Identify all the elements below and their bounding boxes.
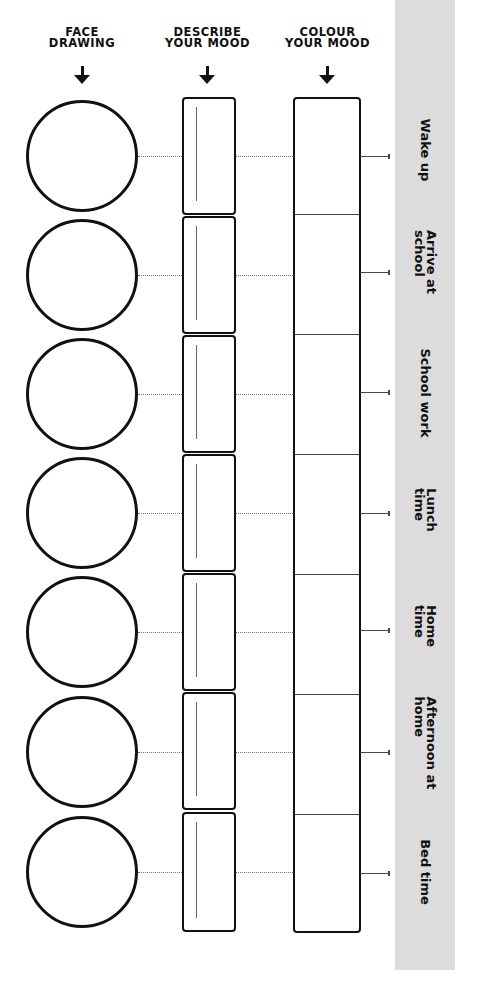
- time-label-text: Bed time: [419, 839, 431, 905]
- describe-mood-box[interactable]: [182, 216, 236, 334]
- header-face-drawing-text: FACE DRAWING: [49, 25, 115, 50]
- time-label-text: Home time: [413, 605, 437, 647]
- connector-line: [236, 156, 293, 157]
- connector-line: [236, 632, 293, 633]
- connector-line: [138, 872, 182, 873]
- timeline-tick: [360, 752, 389, 753]
- writing-line: [196, 822, 197, 918]
- describe-mood-box[interactable]: [182, 335, 236, 453]
- face-drawing-circle[interactable]: [26, 219, 138, 331]
- time-label-text: School work: [419, 348, 431, 437]
- connector-line: [236, 275, 293, 276]
- describe-mood-box[interactable]: [182, 573, 236, 691]
- timeline-tick-end: [388, 270, 390, 275]
- timeline-tick: [360, 392, 389, 393]
- time-label-text: Arrive at school: [413, 230, 437, 294]
- time-label-text: Afternoon at home: [413, 696, 437, 789]
- timeline-tick: [360, 513, 389, 514]
- connector-line: [236, 513, 293, 514]
- timeline-tick: [360, 630, 389, 631]
- header-describe-mood-text: DESCRIBE YOUR MOOD: [165, 25, 250, 50]
- connector-line: [138, 513, 182, 514]
- row-divider: [295, 334, 359, 335]
- describe-mood-box[interactable]: [182, 454, 236, 572]
- face-drawing-circle[interactable]: [26, 816, 138, 928]
- timeline-tick-end: [388, 154, 390, 159]
- connector-line: [236, 752, 293, 753]
- header-colour-mood: COLOUR YOUR MOOD: [270, 27, 385, 49]
- colour-mood-column[interactable]: [293, 97, 361, 933]
- connector-line: [138, 632, 182, 633]
- time-label-text: Wake up: [419, 119, 431, 182]
- face-drawing-circle[interactable]: [26, 338, 138, 450]
- timeline-tick: [360, 873, 389, 874]
- face-drawing-circle[interactable]: [26, 696, 138, 808]
- timeline-tick: [360, 156, 389, 157]
- connector-line: [236, 872, 293, 873]
- describe-mood-box[interactable]: [182, 812, 236, 932]
- timeline-tick-end: [388, 511, 390, 516]
- writing-line: [196, 583, 197, 677]
- face-drawing-circle[interactable]: [26, 457, 138, 569]
- writing-line: [196, 226, 197, 320]
- row-divider: [295, 214, 359, 215]
- time-label-text: Lunch time: [413, 488, 437, 532]
- timeline-tick-end: [388, 750, 390, 755]
- header-describe-mood: DESCRIBE YOUR MOOD: [150, 27, 265, 49]
- timeline-tick: [360, 272, 389, 273]
- row-divider: [295, 694, 359, 695]
- timeline-tick-end: [388, 871, 390, 876]
- writing-line: [196, 464, 197, 558]
- face-drawing-circle[interactable]: [26, 100, 138, 212]
- connector-line: [138, 752, 182, 753]
- writing-line: [196, 107, 197, 201]
- connector-line: [138, 156, 182, 157]
- connector-line: [236, 394, 293, 395]
- header-face-drawing: FACE DRAWING: [32, 27, 132, 49]
- connector-line: [138, 275, 182, 276]
- connector-line: [138, 394, 182, 395]
- writing-line: [196, 702, 197, 796]
- face-drawing-circle[interactable]: [26, 576, 138, 688]
- describe-mood-box[interactable]: [182, 692, 236, 810]
- row-divider: [295, 454, 359, 455]
- row-divider: [295, 814, 359, 815]
- row-divider: [295, 574, 359, 575]
- timeline-tick-end: [388, 390, 390, 395]
- header-colour-mood-text: COLOUR YOUR MOOD: [285, 25, 370, 50]
- writing-line: [196, 345, 197, 439]
- timeline-tick-end: [388, 628, 390, 633]
- describe-mood-box[interactable]: [182, 97, 236, 215]
